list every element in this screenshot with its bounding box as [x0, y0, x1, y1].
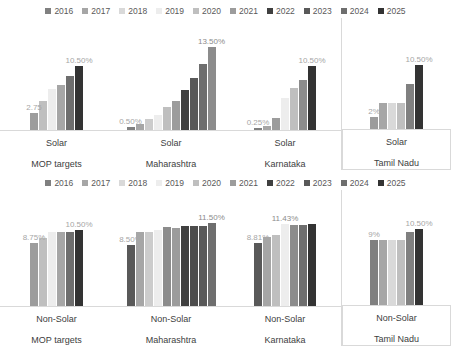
bar[interactable]: [199, 64, 207, 130]
panel-tamil-nadu-non-solar: 9%10.50%Non-SolarTamil Nadu: [341, 190, 451, 346]
bar[interactable]: [163, 107, 171, 130]
bar[interactable]: [308, 224, 316, 306]
legend-swatch-icon: [119, 180, 125, 186]
panel-maharashtra-non-solar: 8.50%11.50%Non-SolarMaharashtra: [113, 190, 229, 346]
legend-item-label: 2017: [91, 7, 110, 16]
panel-captions: Non-SolarMOP targets: [0, 307, 113, 346]
bar[interactable]: [254, 128, 262, 130]
bar[interactable]: [388, 103, 396, 129]
legend-item-2016[interactable]: 2016: [45, 179, 73, 188]
bar[interactable]: [272, 235, 280, 306]
legend-swatch-icon: [341, 8, 347, 14]
bar[interactable]: [379, 103, 387, 129]
group-label: Karnataka: [229, 325, 341, 346]
bar[interactable]: [172, 228, 180, 306]
bar[interactable]: [397, 240, 405, 305]
legend-item-2021[interactable]: 2021: [230, 179, 258, 188]
bar[interactable]: [397, 103, 405, 129]
bar[interactable]: [57, 232, 65, 306]
group-label: Maharashtra: [113, 325, 229, 346]
bar-value-label: 10.50%: [405, 55, 432, 64]
bar[interactable]: [172, 101, 180, 130]
legend-item-2016[interactable]: 2016: [45, 7, 73, 16]
legend-item-2018[interactable]: 2018: [119, 7, 147, 16]
bar[interactable]: [127, 127, 135, 130]
legend-swatch-icon: [45, 180, 51, 186]
bar[interactable]: [30, 113, 38, 130]
plot-area: 0.50%13.50%: [113, 19, 229, 131]
bar[interactable]: [57, 85, 65, 130]
legend-item-2020[interactable]: 2020: [193, 7, 221, 16]
legend-item-2022[interactable]: 2022: [267, 7, 295, 16]
bar[interactable]: [66, 76, 74, 130]
legend-item-2017[interactable]: 2017: [82, 7, 110, 16]
bar[interactable]: [254, 243, 262, 306]
legend-item-2022[interactable]: 2022: [267, 179, 295, 188]
legend-item-2024[interactable]: 2024: [341, 7, 369, 16]
legend-item-label: 2024: [350, 7, 369, 16]
bar[interactable]: [145, 119, 153, 130]
bar[interactable]: [145, 232, 153, 306]
bar[interactable]: [281, 98, 289, 130]
bar[interactable]: [190, 226, 198, 306]
bar[interactable]: [181, 226, 189, 306]
legend-swatch-icon: [119, 8, 125, 14]
legend-swatch-icon: [341, 180, 347, 186]
category-label: Non-Solar: [343, 306, 450, 324]
bar[interactable]: [199, 226, 207, 306]
bar[interactable]: [281, 224, 289, 306]
bar-group: [342, 190, 451, 305]
legend-item-2018[interactable]: 2018: [119, 179, 147, 188]
bar[interactable]: [299, 80, 307, 130]
bar[interactable]: [181, 90, 189, 130]
legend-item-2023[interactable]: 2023: [304, 179, 332, 188]
bar-value-label: 8.75%: [23, 233, 46, 242]
bar[interactable]: [379, 240, 387, 305]
bar[interactable]: [190, 78, 198, 130]
legend-item-2021[interactable]: 2021: [230, 7, 258, 16]
bar[interactable]: [30, 243, 38, 306]
legend-item-2023[interactable]: 2023: [304, 7, 332, 16]
legend-item-2020[interactable]: 2020: [193, 179, 221, 188]
bar[interactable]: [370, 240, 378, 305]
bar[interactable]: [127, 245, 135, 306]
legend-item-2024[interactable]: 2024: [341, 179, 369, 188]
bar[interactable]: [48, 89, 56, 130]
bar[interactable]: [154, 230, 162, 306]
category-label: Solar: [0, 131, 113, 149]
bar[interactable]: [48, 232, 56, 306]
bar[interactable]: [208, 47, 216, 130]
bar[interactable]: [308, 66, 316, 131]
plot-area: 8.50%11.50%: [113, 191, 229, 307]
bar[interactable]: [406, 84, 414, 129]
bar[interactable]: [290, 88, 298, 130]
bar[interactable]: [415, 65, 423, 130]
bar[interactable]: [154, 115, 162, 130]
bar[interactable]: [208, 223, 216, 306]
bar[interactable]: [370, 117, 378, 129]
legend-item-2025[interactable]: 2025: [378, 179, 406, 188]
plot-area: 2.7510.50%: [0, 19, 113, 131]
legend-item-2019[interactable]: 2019: [156, 179, 184, 188]
bar[interactable]: [415, 229, 423, 305]
legend-item-2025[interactable]: 2025: [378, 7, 406, 16]
bar[interactable]: [290, 225, 298, 306]
panel-karnataka-solar: 0.25%10.50%SolarKarnataka: [229, 18, 341, 170]
legend-item-2019[interactable]: 2019: [156, 7, 184, 16]
legend-swatch-icon: [82, 180, 88, 186]
bar[interactable]: [272, 118, 280, 130]
bar[interactable]: [388, 240, 396, 305]
bar-value-label: 11.43%: [272, 214, 299, 223]
bar[interactable]: [299, 225, 307, 306]
panel-captions: Non-SolarTamil Nadu: [342, 306, 451, 346]
bar[interactable]: [163, 227, 171, 306]
bar[interactable]: [66, 232, 74, 306]
bar[interactable]: [406, 232, 414, 305]
bar[interactable]: [75, 66, 83, 131]
legend-item-2017[interactable]: 2017: [82, 179, 110, 188]
bar[interactable]: [39, 238, 47, 306]
bar-group: [229, 191, 341, 306]
bar[interactable]: [75, 230, 83, 306]
bar-value-label: 8.81%: [247, 233, 270, 242]
bar[interactable]: [263, 237, 271, 306]
